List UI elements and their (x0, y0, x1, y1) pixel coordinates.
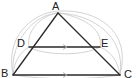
arc-a-to-e (58, 13, 100, 47)
arc-e-to-c (100, 47, 120, 75)
vertex-label-c: C (124, 69, 132, 78)
arc-d-to-e-lower (29, 47, 100, 54)
segment-ac (58, 13, 120, 75)
point-label-e: E (101, 38, 108, 49)
vertex-label-a: A (52, 1, 59, 12)
triangle-diagram: A B C D E (0, 0, 140, 78)
point-label-d: D (17, 38, 25, 49)
vertex-label-b: B (1, 68, 8, 78)
